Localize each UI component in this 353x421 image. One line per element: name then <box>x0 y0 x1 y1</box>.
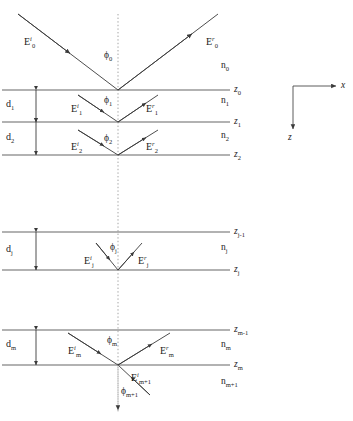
field-label-Ej-incident: Eij <box>84 255 94 269</box>
ray-reflected-layerj-arrow <box>118 252 134 270</box>
thickness-label-d2: d2 <box>6 132 14 145</box>
field-label-Em-incident: Eim <box>68 345 81 359</box>
diagram-vector-layer <box>0 0 353 421</box>
interface-label-zm-1: zm-1 <box>234 325 248 336</box>
field-label-Em-reflected: Erm <box>160 345 174 359</box>
ray-reflected-layer2-arrow <box>118 138 146 156</box>
angle-label-phim: ϕm <box>107 336 117 347</box>
angle-label-phi2: ϕ2 <box>104 134 112 145</box>
field-label-E1-incident: Ei1 <box>71 103 82 117</box>
thickness-label-d1: d1 <box>6 99 14 112</box>
axis-label-x: x <box>341 81 345 91</box>
angle-label-phi0: ϕ0 <box>104 51 112 62</box>
refractive-index-label-nm+1: nm+1 <box>221 377 238 388</box>
refractive-index-label-nm: nm <box>221 340 231 351</box>
field-label-E2-reflected: Er2 <box>146 141 158 155</box>
ray-reflected-layerm-arrow <box>118 344 152 365</box>
diagram-canvas: x z Ei0 Er0 Ei1 Er1 Ei2 Er2 Eij Erj Eim … <box>0 0 353 421</box>
field-label-Ej-reflected: Erj <box>138 255 148 269</box>
angle-label-phij: ϕj <box>110 243 117 254</box>
ray-reflected-top-arrow <box>118 34 192 90</box>
field-label-E1-reflected: Er1 <box>146 103 158 117</box>
field-label-E2-incident: Ei2 <box>71 141 82 155</box>
ray-incident-layerj-arrow <box>96 243 110 260</box>
angle-label-phi1: ϕ1 <box>104 96 112 107</box>
refractive-index-label-n0: n0 <box>221 61 229 72</box>
interface-label-z0: z0 <box>234 85 241 96</box>
refractive-index-label-n1: n1 <box>221 96 229 107</box>
ray-reflected-layer1-arrow <box>118 103 146 122</box>
refractive-index-label-nj: nj <box>221 243 228 254</box>
interface-label-z1: z1 <box>234 117 241 128</box>
interface-label-z2: z2 <box>234 150 241 161</box>
field-label-E0-incident: Ei0 <box>24 36 35 50</box>
angle-label-phim+1: ϕm+1 <box>121 387 138 398</box>
interface-label-zj: zj <box>234 265 240 276</box>
axis-label-z: z <box>288 133 292 143</box>
refractive-index-label-n2: n2 <box>221 131 229 142</box>
thickness-label-dm: dm <box>6 339 16 352</box>
field-label-E0-reflected: Er0 <box>206 36 218 50</box>
field-label-Em+1-transmitted: Eim+1 <box>131 372 151 386</box>
interface-label-zm: zm <box>234 360 243 371</box>
thickness-label-dj: dj <box>6 244 13 257</box>
interface-label-zj-1: zj-1 <box>234 227 245 238</box>
